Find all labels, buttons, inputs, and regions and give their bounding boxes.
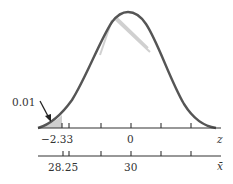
peak-artifact <box>100 17 150 55</box>
normal-curve-diagram <box>0 0 233 184</box>
z-axis-symbol: z <box>217 133 223 145</box>
xbar-label-30: 30 <box>124 161 137 173</box>
z-label-0: 0 <box>127 133 134 145</box>
xbar-axis-ticks <box>63 151 191 156</box>
z-label-neg-2-33: −2.33 <box>41 133 73 145</box>
z-axis-ticks <box>62 123 191 128</box>
xbar-label-28-25: 28.25 <box>48 161 78 173</box>
tail-area-label: 0.01 <box>12 96 35 108</box>
arrow-icon <box>40 101 51 122</box>
xbar-axis-symbol: x̄ <box>217 160 223 172</box>
